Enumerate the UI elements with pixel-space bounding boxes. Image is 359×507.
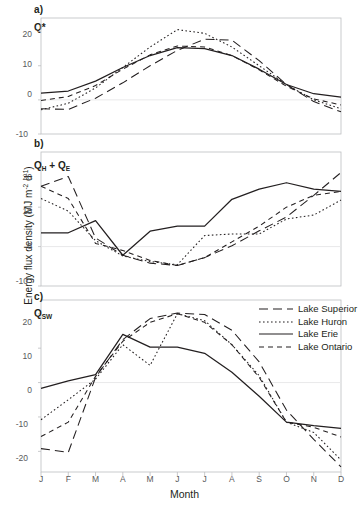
panel-a-letter: a) — [34, 4, 43, 15]
panel-b-title: QH + QE — [34, 160, 70, 171]
x-tick-J-0: J — [34, 474, 48, 484]
panel-c-ytick-10: 10 — [10, 351, 32, 361]
series-line-lake-superior — [41, 39, 341, 112]
legend-item-lake-superior[interactable]: Lake Superior — [258, 303, 357, 316]
series-line-lake-huron — [41, 199, 341, 265]
legend: Lake Superior Lake Huron Lake Erie Lake … — [258, 303, 357, 353]
panel-a-ytick--10: -10 — [6, 129, 28, 139]
x-tick-J-5: J — [170, 474, 184, 484]
series-line-lake-ontario — [41, 186, 341, 265]
panel-b-ytick--10: -10 — [6, 276, 28, 286]
series-line-lake-erie — [41, 183, 341, 256]
panel-c-ytick--20: -20 — [6, 453, 28, 463]
x-axis-label: Month — [10, 488, 359, 500]
legend-label-lake-erie: Lake Erie — [298, 329, 338, 339]
x-tick-O-9: O — [279, 474, 293, 484]
legend-key-dotted-icon — [258, 317, 294, 327]
x-tick-A-7: A — [225, 474, 239, 484]
panel-c-ytick--10: -10 — [6, 419, 28, 429]
x-tick-A-3: A — [116, 474, 130, 484]
legend-key-long-dash-icon — [258, 304, 294, 314]
panel-a-ytick-10: 10 — [10, 59, 32, 69]
legend-key-dashed-icon — [258, 342, 294, 352]
series-line-lake-superior — [41, 172, 341, 265]
legend-item-lake-erie[interactable]: Lake Erie — [258, 328, 357, 341]
series-line-lake-huron — [41, 30, 341, 110]
panel-c-letter: c) — [34, 291, 43, 302]
panel-b-ytick-20: 20 — [10, 172, 32, 182]
panel-a-ytick-20: 20 — [10, 29, 32, 39]
panel-a-title: Q* — [34, 22, 46, 33]
legend-item-lake-ontario[interactable]: Lake Ontario — [258, 341, 357, 354]
legend-key-solid-icon — [258, 329, 294, 339]
panel-c-ytick-20: 20 — [10, 317, 32, 327]
x-tick-D-11: D — [334, 474, 348, 484]
x-tick-S-8: S — [252, 474, 266, 484]
x-tick-M-2: M — [89, 474, 103, 484]
legend-label-lake-huron: Lake Huron — [298, 317, 347, 327]
panel-b-letter: b) — [34, 138, 44, 149]
series-line-lake-erie — [41, 48, 341, 97]
x-tick-J-6: J — [198, 474, 212, 484]
panel-c-title: QSW — [34, 308, 52, 319]
legend-item-lake-huron[interactable]: Lake Huron — [258, 316, 357, 329]
x-tick-F-1: F — [61, 474, 75, 484]
series-line-lake-ontario — [41, 46, 341, 105]
legend-label-lake-ontario: Lake Ontario — [298, 342, 352, 352]
panel-a-ytick-0: 0 — [10, 89, 32, 99]
panel-b-ytick-10: 10 — [10, 206, 32, 216]
panel-b-ytick-0: 0 — [10, 241, 32, 251]
legend-label-lake-superior: Lake Superior — [298, 304, 357, 314]
panel-c-ytick-0: 0 — [10, 385, 32, 395]
x-tick-M-4: M — [143, 474, 157, 484]
x-tick-N-10: N — [307, 474, 321, 484]
